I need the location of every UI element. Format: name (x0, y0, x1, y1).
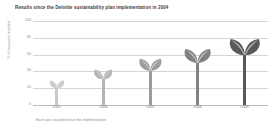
y-axis-tick-label: 0 (9, 103, 31, 107)
x-axis-tick-label: 2006 (80, 106, 127, 110)
data-point-plant-icon (138, 58, 163, 105)
plant-leaves-icon (183, 48, 212, 63)
x-axis-tick-label: 2009 (221, 106, 268, 110)
x-axis-tick-label: 2008 (174, 106, 221, 110)
x-axis: 20052006200720082009 (33, 106, 268, 114)
plant-stem (55, 88, 57, 105)
y-axis: 020406080100 (0, 21, 31, 105)
y-axis-tick-label: 60 (9, 53, 31, 57)
data-point-plant-icon (93, 69, 113, 105)
plant-leaves-icon (228, 38, 262, 55)
data-point-plant-icon (49, 80, 65, 105)
x-axis-tick-label: 2005 (33, 106, 80, 110)
y-axis-tick-label: 80 (9, 36, 31, 40)
plant-stem (102, 79, 104, 105)
data-point-plant-icon (183, 48, 212, 105)
plant-stem (149, 71, 151, 105)
y-axis-label: % of resources recycled (7, 14, 11, 66)
x-axis-tick-label: 2007 (127, 106, 174, 110)
y-axis-tick-label: 40 (9, 69, 31, 73)
data-series-plants (33, 21, 268, 105)
data-point-plant-icon (228, 38, 262, 105)
chart-footnote: Each year recorded since the implementat… (36, 118, 106, 122)
plant-stem (243, 55, 245, 105)
y-axis-tick-label: 100 (9, 19, 31, 23)
plant-leaves-icon (93, 69, 113, 80)
y-axis-tick-label: 20 (9, 86, 31, 90)
chart-title: Results since the Deloitte sustainabilit… (15, 5, 168, 10)
plant-stem (196, 63, 198, 105)
chart-container: Results since the Deloitte sustainabilit… (0, 0, 279, 130)
plant-leaves-icon (138, 58, 163, 71)
plant-leaves-icon (49, 80, 65, 88)
